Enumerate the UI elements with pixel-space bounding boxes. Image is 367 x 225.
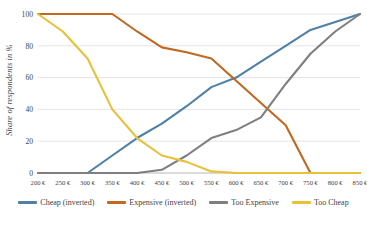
legend-swatch-icon	[18, 201, 37, 203]
x-tick-label: 650 €	[254, 179, 270, 186]
x-tick-label: 800 €	[328, 179, 344, 186]
x-tick-label: 250 €	[55, 179, 71, 186]
legend-swatch-icon	[107, 201, 126, 203]
series-line	[38, 14, 360, 173]
x-tick-label: 550 €	[204, 179, 220, 186]
line-chart: Share of respondents in % 020406080100 2…	[0, 0, 367, 225]
y-tick-labels-group: 020406080100	[22, 10, 34, 178]
series-line	[38, 14, 360, 173]
legend-item[interactable]: Expensive (inverted)	[107, 198, 196, 207]
x-tick-label: 450 €	[154, 179, 170, 186]
legend-swatch-icon	[209, 201, 228, 203]
x-tick-label: 750 €	[303, 179, 319, 186]
series-line	[38, 14, 360, 173]
y-tick-label: 60	[25, 73, 33, 82]
legend-label: Cheap (inverted)	[40, 198, 94, 207]
x-tick-label: 300 €	[80, 179, 96, 186]
series-group	[38, 14, 360, 173]
y-tick-label: 80	[25, 42, 33, 51]
y-tick-label: 40	[25, 105, 33, 114]
y-tick-label: 100	[22, 10, 34, 19]
x-tick-label: 350 €	[105, 179, 121, 186]
y-tick-label: 0	[29, 169, 33, 178]
legend-label: Too Expensive	[231, 198, 279, 207]
legend-item[interactable]: Cheap (inverted)	[18, 198, 94, 207]
legend-item[interactable]: Too Expensive	[209, 198, 279, 207]
gridlines-group	[38, 14, 360, 173]
x-tick-label: 700 €	[278, 179, 294, 186]
y-tick-label: 20	[25, 137, 33, 146]
legend-label: Expensive (inverted)	[129, 198, 196, 207]
x-tick-label: 600 €	[229, 179, 245, 186]
plot-area: 020406080100 200 €250 €300 €350 €400 €45…	[0, 0, 367, 198]
series-line	[38, 14, 360, 173]
x-tick-label: 500 €	[179, 179, 195, 186]
legend-item[interactable]: Too Cheap	[292, 198, 349, 207]
legend-label: Too Cheap	[314, 198, 349, 207]
x-tick-labels-group: 200 €250 €300 €350 €400 €450 €500 €550 €…	[31, 179, 367, 186]
chart-legend: Cheap (inverted)Expensive (inverted)Too …	[0, 198, 367, 207]
x-tick-label: 850 €	[353, 179, 367, 186]
x-tick-label: 200 €	[31, 179, 47, 186]
legend-swatch-icon	[292, 201, 311, 203]
x-tick-label: 400 €	[130, 179, 146, 186]
